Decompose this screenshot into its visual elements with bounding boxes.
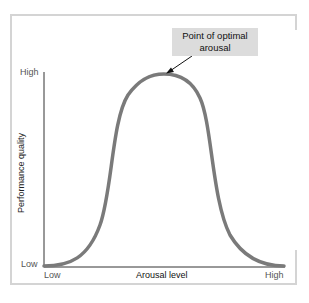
x-tick-high: High bbox=[265, 270, 284, 280]
optimal-arousal-callout: Point of optimal arousal bbox=[172, 28, 258, 56]
performance-curve bbox=[44, 74, 284, 266]
y-tick-low: Low bbox=[21, 259, 38, 269]
inverted-u-diagram: Point of optimal arousal High Low Low Hi… bbox=[0, 0, 309, 303]
callout-line-1: Point of optimal bbox=[172, 30, 258, 42]
callout-arrow bbox=[166, 56, 192, 74]
y-tick-high: High bbox=[20, 67, 39, 77]
y-axis-title: Performance quality bbox=[16, 113, 26, 233]
x-axis-title: Arousal level bbox=[136, 270, 188, 280]
x-tick-low: Low bbox=[44, 270, 61, 280]
callout-line-2: arousal bbox=[172, 42, 258, 54]
diagram-canvas bbox=[0, 0, 309, 303]
